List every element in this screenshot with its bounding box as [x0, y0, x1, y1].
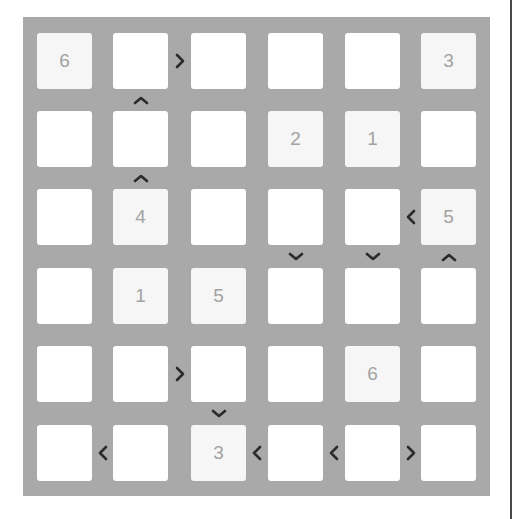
- down-chevron-icon: [365, 249, 381, 265]
- empty-cell[interactable]: [345, 189, 400, 245]
- empty-cell[interactable]: [345, 425, 400, 481]
- given-cell[interactable]: 4: [113, 189, 168, 245]
- given-cell[interactable]: 1: [345, 111, 400, 167]
- greater-than-icon: [172, 53, 188, 69]
- up-chevron-icon: [133, 92, 149, 108]
- down-chevron-icon: [211, 406, 227, 422]
- empty-cell[interactable]: [37, 268, 92, 324]
- down-chevron-icon: [288, 249, 304, 265]
- empty-cell[interactable]: [113, 111, 168, 167]
- empty-cell[interactable]: [268, 425, 323, 481]
- empty-cell[interactable]: [191, 346, 246, 402]
- empty-cell[interactable]: [268, 33, 323, 89]
- empty-cell[interactable]: [421, 346, 476, 402]
- empty-cell[interactable]: [345, 33, 400, 89]
- greater-than-icon: [172, 366, 188, 382]
- empty-cell[interactable]: [268, 346, 323, 402]
- up-chevron-icon: [441, 249, 457, 265]
- given-cell[interactable]: 5: [421, 189, 476, 245]
- given-cell[interactable]: 6: [345, 346, 400, 402]
- empty-cell[interactable]: [113, 346, 168, 402]
- empty-cell[interactable]: [268, 268, 323, 324]
- greater-than-icon: [403, 445, 419, 461]
- given-cell[interactable]: 2: [268, 111, 323, 167]
- window-edge: [510, 0, 512, 519]
- given-cell[interactable]: 3: [421, 33, 476, 89]
- given-cell[interactable]: 6: [37, 33, 92, 89]
- empty-cell[interactable]: [113, 33, 168, 89]
- empty-cell[interactable]: [37, 346, 92, 402]
- given-cell[interactable]: 3: [191, 425, 246, 481]
- up-chevron-icon: [133, 170, 149, 186]
- empty-cell[interactable]: [421, 268, 476, 324]
- given-cell[interactable]: 1: [113, 268, 168, 324]
- less-than-icon: [326, 445, 342, 461]
- empty-cell[interactable]: [191, 33, 246, 89]
- empty-cell[interactable]: [345, 268, 400, 324]
- less-than-icon: [403, 209, 419, 225]
- less-than-icon: [95, 445, 111, 461]
- empty-cell[interactable]: [191, 111, 246, 167]
- empty-cell[interactable]: [37, 111, 92, 167]
- empty-cell[interactable]: [421, 111, 476, 167]
- empty-cell[interactable]: [37, 189, 92, 245]
- empty-cell[interactable]: [268, 189, 323, 245]
- less-than-icon: [249, 445, 265, 461]
- empty-cell[interactable]: [37, 425, 92, 481]
- puzzle-board: 6321451563: [23, 17, 490, 496]
- given-cell[interactable]: 5: [191, 268, 246, 324]
- empty-cell[interactable]: [191, 189, 246, 245]
- empty-cell[interactable]: [113, 425, 168, 481]
- empty-cell[interactable]: [421, 425, 476, 481]
